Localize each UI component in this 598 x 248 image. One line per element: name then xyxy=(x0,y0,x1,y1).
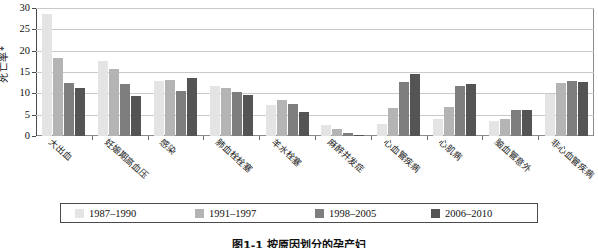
y-tick-label: 10 xyxy=(20,88,31,99)
bar xyxy=(567,81,577,136)
bar xyxy=(266,105,276,136)
bar-series-layer xyxy=(36,8,594,136)
bar xyxy=(343,133,353,136)
bar-group xyxy=(36,8,92,136)
bar xyxy=(444,107,454,136)
bar xyxy=(131,96,141,136)
bar xyxy=(354,135,364,136)
bar xyxy=(277,100,287,136)
bar xyxy=(466,84,476,136)
x-axis-labels: 大出血妊娠期高血压感染肺血栓栓塞羊水栓塞麻醉并发症心血管疾病心肌病脑血管意外非心… xyxy=(36,138,594,190)
bar xyxy=(399,82,409,136)
x-axis-label: 心肌病 xyxy=(437,138,463,163)
x-axis-label: 心血管疾病 xyxy=(381,138,421,175)
x-axis-label: 脑血管意外 xyxy=(493,138,533,175)
bar xyxy=(42,14,52,136)
bar-group xyxy=(203,8,259,136)
figure-caption: 图1-1 按原因划分的孕产妇 xyxy=(0,236,598,248)
bar-group xyxy=(92,8,148,136)
bar xyxy=(64,83,74,136)
legend-item: 1987–1990 xyxy=(61,208,181,219)
bar xyxy=(500,119,510,136)
bar xyxy=(165,80,175,136)
bar xyxy=(120,84,130,136)
bar xyxy=(232,92,242,136)
bar-group xyxy=(371,8,427,136)
y-tick-label: 20 xyxy=(20,45,31,56)
bar xyxy=(321,125,331,136)
bar xyxy=(433,119,443,136)
bar xyxy=(545,94,555,136)
y-tick-label: 15 xyxy=(20,67,31,78)
bar xyxy=(578,82,588,136)
x-axis-label: 妊娠期高血压 xyxy=(102,138,148,181)
bar xyxy=(221,88,231,136)
bar-group xyxy=(259,8,315,136)
legend-label: 1991–1997 xyxy=(209,208,256,219)
y-tick-label: 0 xyxy=(25,131,30,142)
y-tick-label: 5 xyxy=(25,109,30,120)
bar-group xyxy=(427,8,483,136)
bar xyxy=(109,69,119,136)
bar xyxy=(98,61,108,136)
bar-group xyxy=(148,8,204,136)
x-axis-label: 大出血 xyxy=(46,138,72,163)
bar xyxy=(377,124,387,136)
bar xyxy=(299,112,309,136)
legend-label: 2006–2010 xyxy=(445,208,492,219)
bar xyxy=(511,110,521,136)
legend-label: 1998–2005 xyxy=(329,208,376,219)
chart-legend: 1987–19901991–19971998–20052006–2010 xyxy=(60,203,538,223)
x-axis-label: 肺血栓栓塞 xyxy=(214,138,254,175)
x-axis-label: 非心血管疾病 xyxy=(549,138,595,181)
bar-group xyxy=(315,8,371,136)
plot-area: 051015202530 xyxy=(36,8,594,136)
x-axis-label: 羊水栓塞 xyxy=(270,138,303,169)
bar-group xyxy=(538,8,594,136)
y-tick-label: 25 xyxy=(20,24,31,35)
y-tick-mark xyxy=(32,136,36,137)
legend-item: 1991–1997 xyxy=(181,208,301,219)
y-tick-label: 30 xyxy=(20,3,31,14)
chart-figure: 死亡率* 051015202530 大出血妊娠期高血压感染肺血栓栓塞羊水栓塞麻醉… xyxy=(0,0,598,248)
bar xyxy=(243,95,253,136)
bar xyxy=(176,91,186,136)
bar xyxy=(556,83,566,136)
bar xyxy=(332,129,342,136)
bar xyxy=(187,78,197,136)
legend-item: 1998–2005 xyxy=(301,208,421,219)
x-axis-label: 麻醉并发症 xyxy=(325,138,365,175)
bar xyxy=(53,58,63,136)
bar xyxy=(489,121,499,136)
legend-swatch xyxy=(431,209,440,218)
bar xyxy=(288,104,298,136)
bar xyxy=(388,108,398,136)
bar xyxy=(75,88,85,136)
legend-swatch xyxy=(75,209,84,218)
legend-swatch xyxy=(315,209,324,218)
bar xyxy=(210,86,220,136)
y-axis-title: 死亡率* xyxy=(0,46,10,83)
legend-item: 2006–2010 xyxy=(421,208,537,219)
bar xyxy=(410,74,420,136)
bar xyxy=(455,86,465,136)
bar xyxy=(522,110,532,136)
bar-group xyxy=(482,8,538,136)
legend-label: 1987–1990 xyxy=(89,208,136,219)
x-axis-label: 感染 xyxy=(158,138,178,157)
legend-swatch xyxy=(195,209,204,218)
bar xyxy=(154,81,164,136)
